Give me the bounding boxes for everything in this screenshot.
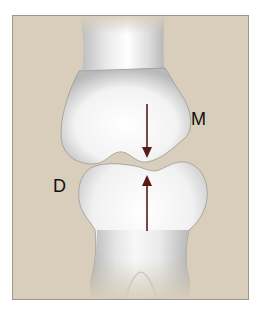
- joint-illustration: [13, 16, 249, 300]
- label-d: D: [53, 176, 66, 197]
- diagram-frame: M D: [12, 15, 249, 300]
- upper-bone: [61, 16, 191, 164]
- lower-bone: [73, 162, 213, 300]
- label-m: M: [191, 109, 206, 130]
